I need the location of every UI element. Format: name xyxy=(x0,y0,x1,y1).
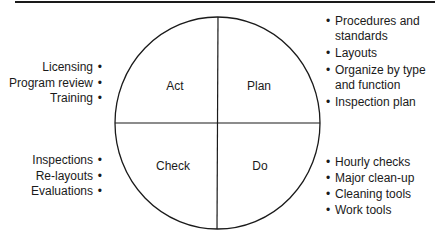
list-item: Evaluations xyxy=(31,184,102,200)
do-list: Hourly checks Major clean-up Cleaning to… xyxy=(325,155,435,219)
list-item: Organize by type and function xyxy=(325,63,435,93)
list-item: Training xyxy=(9,91,102,107)
list-item: Procedures and standards xyxy=(325,14,435,44)
act-list: Licensing Program review Training xyxy=(9,60,102,107)
list-item: Program review xyxy=(9,76,102,92)
check-list: Inspections Re-layouts Evaluations xyxy=(31,153,102,200)
list-item: Inspections xyxy=(31,153,102,169)
list-item: Re-layouts xyxy=(31,169,102,185)
list-item: Work tools xyxy=(325,203,435,217)
plan-list: Procedures and standards Layouts Organiz… xyxy=(325,14,435,112)
list-item: Cleaning tools xyxy=(325,187,435,201)
quadrant-check-label: Check xyxy=(156,159,190,173)
quadrant-act-label: Act xyxy=(166,79,183,93)
list-item: Hourly checks xyxy=(325,155,435,169)
list-item: Layouts xyxy=(325,46,435,61)
list-item: Licensing xyxy=(9,60,102,76)
quadrant-do-label: Do xyxy=(252,159,267,173)
quadrant-plan-label: Plan xyxy=(247,79,271,93)
list-item: Major clean-up xyxy=(325,171,435,185)
list-item: Inspection plan xyxy=(325,95,435,110)
